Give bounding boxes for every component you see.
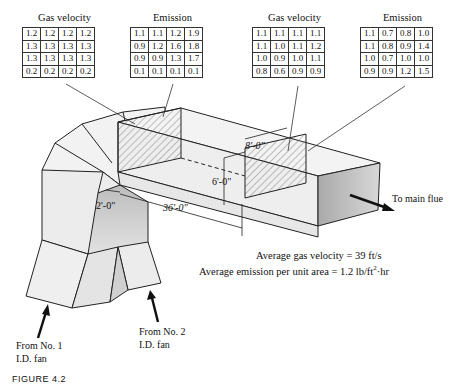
cell: 1.1 [271, 28, 289, 41]
cell: 1.3 [23, 53, 41, 66]
cell: 0.8 [379, 40, 397, 53]
cell: 0.2 [23, 65, 41, 78]
table-2-title: Emission [130, 12, 215, 23]
cell: 0.1 [167, 65, 185, 78]
cell: 0.2 [59, 65, 77, 78]
table-1-title: Gas velocity [22, 12, 107, 23]
fan1-arrow [38, 312, 46, 338]
dim-height-label: 6'-0" [212, 176, 231, 187]
cell: 1.2 [77, 28, 95, 41]
cell: 0.9 [131, 53, 149, 66]
cell: 1.2 [41, 28, 59, 41]
cell: 0.9 [289, 65, 307, 78]
figure-caption: FIGURE 4.2 [12, 374, 66, 384]
cell: 1.2 [307, 40, 325, 53]
cell: 1.3 [59, 53, 77, 66]
cell: 1.3 [77, 53, 95, 66]
cell: 1.1 [289, 28, 307, 41]
cell: 1.1 [253, 40, 271, 53]
cell: 1.3 [41, 53, 59, 66]
outlet-label: To main flue [392, 193, 443, 204]
average-emission: Average emission per unit area = 1.2 lb/… [199, 264, 389, 277]
gas-velocity-table-2: 1.11.11.11.1 1.11.01.11.2 1.00.91.01.1 0… [252, 27, 325, 78]
cell: 1.0 [415, 53, 433, 66]
cell: 1.1 [361, 28, 379, 41]
cell: 1.2 [397, 65, 415, 78]
cell: 0.9 [149, 53, 167, 66]
dim-length-label: 36'-0" [163, 202, 188, 213]
cell: 0.9 [379, 65, 397, 78]
cell: 1.2 [59, 28, 77, 41]
cell: 1.1 [361, 40, 379, 53]
cell: 1.3 [167, 53, 185, 66]
cell: 1.3 [23, 40, 41, 53]
average-emission-prefix: Average emission per unit area = 1.2 lb/… [199, 266, 373, 277]
cell: 0.1 [185, 65, 203, 78]
cell: 1.2 [23, 28, 41, 41]
fan1-label-line1: From No. 1 [16, 340, 62, 351]
fan2-label-line1: From No. 2 [139, 326, 185, 337]
cell: 1.8 [185, 40, 203, 53]
cell: 1.0 [361, 53, 379, 66]
cell: 1.4 [415, 40, 433, 53]
dim-offset-label: 2'-0" [96, 200, 115, 211]
cell: 0.8 [253, 65, 271, 78]
cell: 0.9 [271, 53, 289, 66]
cell: 1.3 [59, 40, 77, 53]
table-4-title: Emission [360, 12, 445, 23]
cell: 1.0 [253, 53, 271, 66]
dim-width-label: 8'-0" [245, 140, 265, 151]
cell: 1.1 [149, 28, 167, 41]
cell: 1.1 [307, 53, 325, 66]
fan2-arrow [152, 298, 158, 322]
cell: 1.2 [149, 40, 167, 53]
cell: 1.6 [167, 40, 185, 53]
average-emission-suffix: ·hr [377, 266, 389, 277]
cell: 0.7 [379, 28, 397, 41]
cell: 1.7 [185, 53, 203, 66]
cell: 0.1 [149, 65, 167, 78]
cell: 1.0 [271, 40, 289, 53]
cell: 1.0 [397, 53, 415, 66]
cell: 0.1 [131, 65, 149, 78]
cell: 0.8 [397, 28, 415, 41]
cell: 1.2 [167, 28, 185, 41]
gas-velocity-table-1: 1.21.21.21.2 1.31.31.31.3 1.31.31.31.3 0… [22, 27, 95, 78]
cell: 1.3 [41, 40, 59, 53]
cell: 0.9 [397, 40, 415, 53]
fan2-label-line2: I.D. fan [139, 339, 170, 350]
cell: 1.1 [131, 28, 149, 41]
emission-table-2: 1.10.70.81.0 1.10.80.91.4 1.00.71.01.0 0… [360, 27, 433, 78]
cell: 0.9 [131, 40, 149, 53]
cell: 0.7 [379, 53, 397, 66]
average-velocity: Average gas velocity = 39 ft/s [256, 250, 382, 261]
cell: 1.0 [289, 53, 307, 66]
table-3-title: Gas velocity [252, 12, 337, 23]
cell: 0.9 [361, 65, 379, 78]
emission-table-1: 1.11.11.21.9 0.91.21.61.8 0.90.91.31.7 0… [130, 27, 203, 78]
cell: 1.1 [289, 40, 307, 53]
fan1-label-line2: I.D. fan [16, 353, 47, 364]
cell: 1.3 [77, 40, 95, 53]
cell: 1.1 [253, 28, 271, 41]
cell: 1.9 [185, 28, 203, 41]
cell: 0.9 [307, 65, 325, 78]
cell: 0.2 [77, 65, 95, 78]
cell: 0.6 [271, 65, 289, 78]
cell: 1.5 [415, 65, 433, 78]
cell: 1.1 [307, 28, 325, 41]
cell: 1.0 [415, 28, 433, 41]
cell: 0.2 [41, 65, 59, 78]
